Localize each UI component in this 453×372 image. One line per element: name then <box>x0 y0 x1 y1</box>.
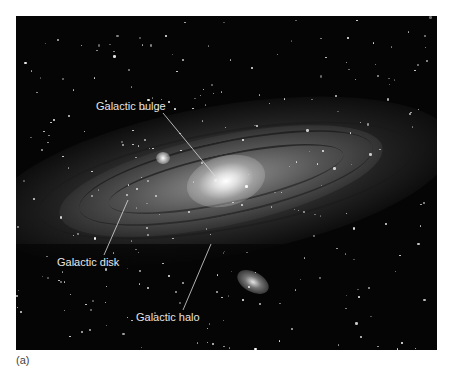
star <box>138 252 140 254</box>
star <box>46 256 48 258</box>
star <box>149 148 151 150</box>
star <box>23 180 25 182</box>
star <box>62 78 64 80</box>
star <box>105 268 108 271</box>
star <box>172 54 174 56</box>
star <box>165 35 167 37</box>
star <box>360 122 362 124</box>
star <box>138 145 140 147</box>
star <box>73 89 75 91</box>
star <box>201 162 203 164</box>
star <box>141 177 143 179</box>
star <box>394 79 396 81</box>
star <box>131 240 133 242</box>
star <box>314 214 316 216</box>
star <box>388 78 390 80</box>
star <box>423 202 425 204</box>
star <box>221 297 223 299</box>
star <box>175 291 177 293</box>
star <box>159 214 161 216</box>
star <box>135 157 137 159</box>
star <box>337 111 339 113</box>
star <box>85 304 87 306</box>
star <box>353 259 355 261</box>
star <box>212 343 214 345</box>
star <box>206 228 208 230</box>
star <box>397 348 399 350</box>
star <box>225 127 227 129</box>
star <box>369 153 372 156</box>
star <box>91 195 93 197</box>
star <box>248 174 250 176</box>
star <box>230 59 232 61</box>
star <box>60 216 63 219</box>
star <box>368 287 370 289</box>
star <box>223 252 225 254</box>
star <box>174 108 176 110</box>
star <box>50 122 52 124</box>
star <box>348 69 350 71</box>
star <box>223 346 225 348</box>
star <box>194 98 196 100</box>
star <box>152 97 154 99</box>
star <box>113 51 115 53</box>
star <box>298 210 300 212</box>
star <box>232 202 234 204</box>
star <box>418 109 420 111</box>
star <box>20 311 22 313</box>
star <box>424 35 426 37</box>
star <box>73 235 75 237</box>
star <box>45 43 47 45</box>
star <box>64 310 66 312</box>
star <box>319 277 321 279</box>
star <box>346 213 348 215</box>
star <box>188 211 190 213</box>
star <box>224 251 226 253</box>
star <box>40 77 42 79</box>
star <box>351 164 353 166</box>
star <box>321 185 323 187</box>
star <box>141 347 143 349</box>
star <box>309 151 311 153</box>
star <box>139 37 141 39</box>
star <box>420 225 422 227</box>
star <box>429 16 432 19</box>
star <box>336 248 338 250</box>
star <box>77 233 79 235</box>
star <box>193 181 195 183</box>
star <box>217 274 219 276</box>
star <box>303 211 305 213</box>
star <box>294 209 296 211</box>
star <box>228 295 230 297</box>
star <box>43 131 45 133</box>
star <box>36 92 38 94</box>
star <box>291 40 293 42</box>
star <box>304 257 306 259</box>
star <box>269 103 271 105</box>
star <box>401 342 403 344</box>
star <box>320 75 323 78</box>
star <box>320 215 322 217</box>
star <box>53 119 56 122</box>
star <box>245 185 248 188</box>
star <box>207 328 209 330</box>
star <box>139 270 141 272</box>
star <box>182 59 184 61</box>
star <box>231 271 233 273</box>
figure-caption: (a) <box>16 353 29 367</box>
star <box>205 104 207 106</box>
star <box>30 137 32 139</box>
star <box>42 276 44 278</box>
star <box>147 287 149 289</box>
star <box>200 95 202 97</box>
star <box>41 149 43 151</box>
star <box>152 148 154 150</box>
star <box>248 286 250 288</box>
star <box>300 279 302 281</box>
star <box>320 38 322 40</box>
star <box>345 308 347 310</box>
star <box>94 237 97 240</box>
star <box>122 144 124 146</box>
star <box>126 194 128 196</box>
star <box>192 108 194 110</box>
